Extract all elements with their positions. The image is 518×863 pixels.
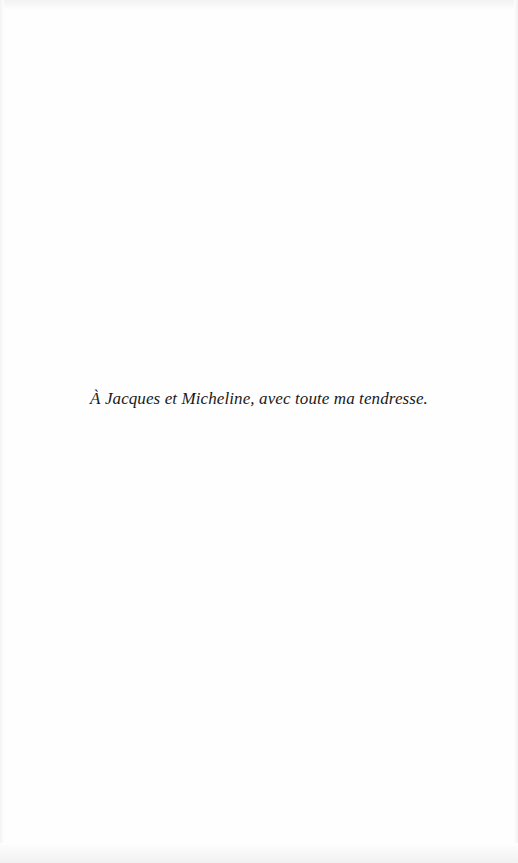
book-page: À Jacques et Micheline, avec toute ma te… bbox=[0, 0, 518, 863]
dedication-text: À Jacques et Micheline, avec toute ma te… bbox=[0, 389, 518, 409]
page-edge-right bbox=[514, 0, 518, 863]
page-bleed-through-bottom bbox=[0, 843, 518, 863]
page-edge-left bbox=[0, 0, 4, 863]
page-bleed-through-top bbox=[0, 0, 518, 10]
